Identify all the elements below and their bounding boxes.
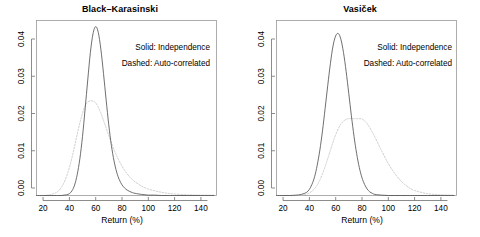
y-tick-label: 0.02 — [17, 105, 26, 121]
x-tick-label: 120 — [408, 204, 422, 213]
x-tick-label: 80 — [357, 204, 367, 213]
x-tick-label: 40 — [65, 204, 75, 213]
x-tick-label: 140 — [194, 204, 208, 213]
legend-solid-label: Solid: Independence — [135, 43, 210, 52]
x-tick-label: 40 — [305, 204, 315, 213]
y-tick-label: 0.03 — [17, 68, 26, 84]
x-axis-right: 20 40 60 80 100 120 140 Return (%) — [279, 197, 449, 225]
y-axis-right: 0.00 0.01 0.02 0.03 0.04 — [257, 31, 275, 196]
y-tick-label: 0.01 — [17, 142, 26, 158]
density-curve-auto-correlated — [277, 119, 454, 196]
x-axis-title: Return (%) — [101, 215, 143, 225]
y-tick-label: 0.04 — [17, 31, 26, 47]
x-tick-label: 120 — [168, 204, 182, 213]
legend-right: Solid: Independence Dashed: Auto-correla… — [364, 43, 453, 68]
x-axis-title: Return (%) — [341, 215, 383, 225]
x-tick-label: 100 — [141, 204, 155, 213]
plot-svg-left: 0.00 0.01 0.02 0.03 0.04 20 40 60 80 — [0, 0, 240, 237]
plot-panel-black-karasinski: Black–Karasinski 0.00 0.01 0.02 0.03 0.0… — [0, 0, 240, 237]
y-tick-label: 0.00 — [257, 180, 266, 196]
x-axis-left: 20 40 60 80 100 120 140 Return (%) — [39, 197, 209, 225]
legend-dashed-label: Dashed: Auto-correlated — [364, 59, 453, 68]
density-curve-independence — [277, 33, 454, 195]
x-tick-label: 60 — [91, 204, 101, 213]
y-tick-label: 0.04 — [257, 31, 266, 47]
legend-solid-label: Solid: Independence — [377, 43, 452, 52]
x-tick-label: 20 — [279, 204, 289, 213]
y-tick-label: 0.00 — [17, 180, 26, 196]
x-tick-label: 100 — [381, 204, 395, 213]
figure-root: Black–Karasinski 0.00 0.01 0.02 0.03 0.0… — [0, 0, 480, 237]
y-tick-label: 0.01 — [257, 142, 266, 158]
x-tick-label: 60 — [331, 204, 341, 213]
y-tick-label: 0.03 — [257, 68, 266, 84]
y-tick-label: 0.02 — [257, 105, 266, 121]
curves-right — [277, 33, 454, 195]
x-tick-label: 140 — [434, 204, 448, 213]
legend-dashed-label: Dashed: Auto-correlated — [122, 59, 211, 68]
x-tick-label: 80 — [117, 204, 127, 213]
y-axis-left: 0.00 0.01 0.02 0.03 0.04 — [17, 31, 35, 196]
plot-svg-right: 0.00 0.01 0.02 0.03 0.04 20 40 60 80 100 — [240, 0, 480, 237]
plot-panel-vasicek: Vasiček 0.00 0.01 0.02 0.03 0.04 — [240, 0, 480, 237]
legend-left: Solid: Independence Dashed: Auto-correla… — [122, 43, 211, 68]
density-curve-auto-correlated — [37, 101, 214, 196]
x-tick-label: 20 — [39, 204, 49, 213]
